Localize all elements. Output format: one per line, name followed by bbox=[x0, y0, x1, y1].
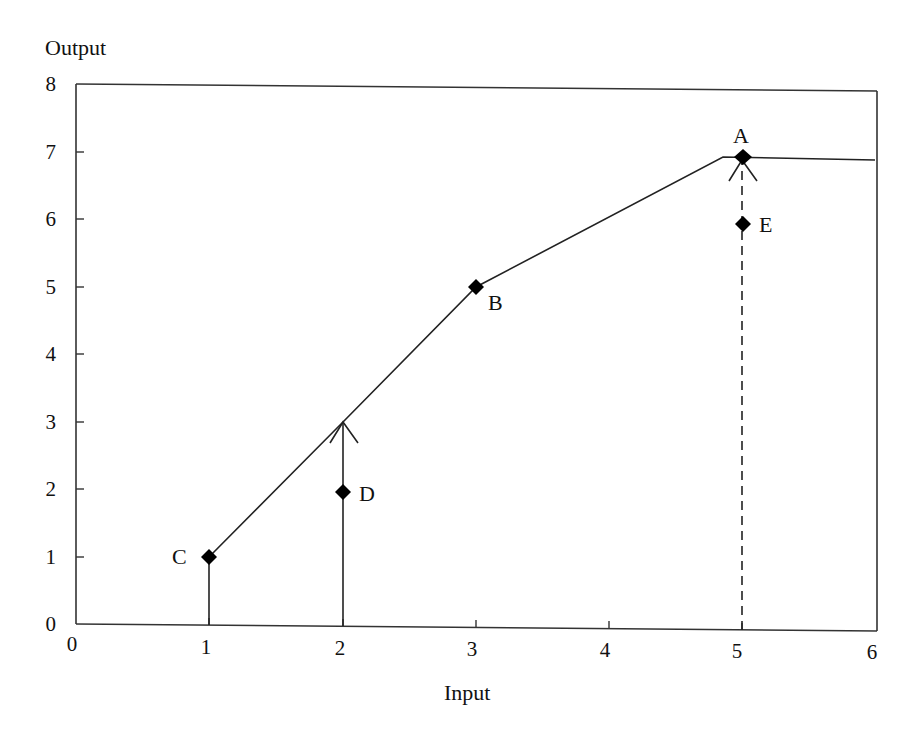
y-tick-0: 0 bbox=[26, 614, 56, 635]
marker-a bbox=[734, 149, 752, 165]
y-axis-title: Output bbox=[45, 37, 106, 59]
y-tick-5: 5 bbox=[26, 277, 56, 298]
y-axis-ticks bbox=[76, 152, 84, 557]
point-label-c: C bbox=[172, 546, 187, 568]
marker-d bbox=[335, 484, 351, 500]
y-tick-7: 7 bbox=[26, 142, 56, 163]
point-markers bbox=[201, 149, 752, 565]
frontier-line bbox=[209, 157, 875, 557]
x-tick-2: 2 bbox=[325, 638, 355, 659]
x-axis-title: Input bbox=[444, 682, 490, 704]
x-tick-5: 5 bbox=[722, 641, 752, 662]
y-tick-6: 6 bbox=[26, 209, 56, 230]
frame-top bbox=[76, 84, 877, 91]
x-tick-6: 6 bbox=[857, 642, 887, 663]
point-label-e: E bbox=[759, 214, 772, 236]
y-tick-4: 4 bbox=[26, 344, 56, 365]
y-tick-1: 1 bbox=[26, 547, 56, 568]
x-tick-0: 0 bbox=[57, 634, 87, 655]
point-label-d: D bbox=[359, 483, 375, 505]
plot-frame bbox=[76, 84, 877, 631]
point-label-b: B bbox=[488, 292, 503, 314]
y-tick-8: 8 bbox=[26, 74, 56, 95]
marker-e bbox=[735, 216, 751, 232]
x-tick-3: 3 bbox=[457, 639, 487, 660]
y-tick-3: 3 bbox=[26, 412, 56, 433]
chart-canvas bbox=[0, 0, 914, 742]
arrow-d-to-frontier bbox=[330, 422, 358, 626]
y-tick-2: 2 bbox=[26, 479, 56, 500]
point-label-a: A bbox=[733, 125, 749, 147]
x-tick-4: 4 bbox=[590, 640, 620, 661]
x-tick-1: 1 bbox=[191, 637, 221, 658]
